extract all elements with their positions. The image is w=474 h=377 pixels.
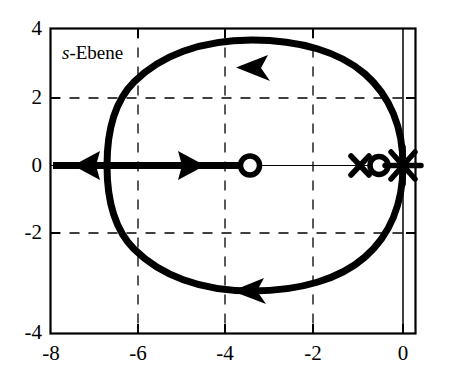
xtick-label-minus4: -4 — [206, 343, 244, 364]
arrow-real-axis-left — [73, 151, 100, 180]
xtick-label-minus8: -8 — [32, 343, 70, 364]
xtick-label-minus6: -6 — [119, 343, 157, 364]
ytick-label-4: 4 — [16, 18, 42, 39]
arrow-complex-upper — [236, 55, 270, 81]
ytick-label-0: 0 — [16, 155, 42, 176]
ytick-label-2: 2 — [16, 87, 42, 108]
ytick-label-minus4: -4 — [10, 322, 42, 343]
plane-annotation-suffix: -Ebene — [69, 42, 123, 63]
xtick-label-minus2: -2 — [294, 343, 332, 364]
double-pole-marker-origin — [385, 147, 421, 184]
root-locus-figure: s-Ebene 4 2 0 -2 -4 -8 -6 -4 -2 0 — [0, 0, 474, 377]
arrow-real-axis-right — [178, 151, 205, 180]
zero-marker-minus3p5 — [241, 156, 260, 175]
ytick-label-minus2: -2 — [10, 222, 42, 243]
plane-annotation-label: s-Ebene — [62, 42, 123, 64]
xtick-label-0: 0 — [384, 343, 422, 364]
